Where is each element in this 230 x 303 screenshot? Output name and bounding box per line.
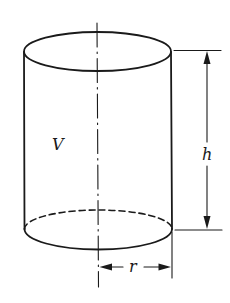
height-arrow-up-icon [204, 51, 211, 64]
height-arrow-down-icon [204, 216, 211, 229]
cylinder-diagram: V h r [0, 0, 230, 303]
radius-arrow-left-icon [100, 264, 113, 271]
volume-label: V [52, 135, 65, 154]
left-side-line [24, 52, 25, 229]
radius-arrow-right-icon [159, 264, 172, 271]
height-label: h [202, 145, 212, 164]
right-side-line [171, 52, 172, 229]
axis-centerline [97, 23, 99, 287]
radius-label: r [129, 257, 138, 276]
